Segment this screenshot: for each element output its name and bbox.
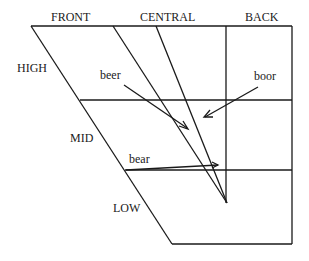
label-back: BACK — [245, 10, 279, 24]
label-high: HIGH — [17, 61, 47, 75]
word-beer: beer — [100, 68, 121, 82]
word-bear: bear — [129, 152, 150, 166]
vowel-chart: FRONT CENTRAL BACK HIGH MID LOW beer boo… — [0, 0, 309, 261]
boor-arrow — [205, 87, 258, 117]
front-edge — [31, 26, 172, 244]
label-mid: MID — [70, 131, 94, 145]
label-central: CENTRAL — [140, 10, 195, 24]
word-boor: boor — [254, 69, 276, 83]
label-front: FRONT — [51, 10, 91, 24]
label-low: LOW — [113, 201, 141, 215]
